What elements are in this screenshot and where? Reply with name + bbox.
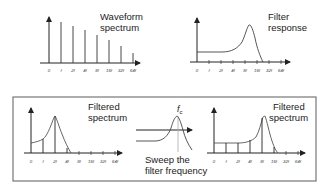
- sweep-filter-curve: [136, 116, 192, 150]
- svg-text:8f: 8f: [95, 68, 99, 73]
- x-tick-labels: 0 f 2f 4f 8f 16f 32f 64f: [30, 159, 119, 164]
- x-tick-labels: 0 f 2f 4f 8f 16f 32f 64f: [196, 68, 285, 73]
- svg-text:64f: 64f: [295, 159, 302, 164]
- svg-text:64f: 64f: [130, 68, 137, 73]
- filtered-spectrum-low-panel: 0 f 2f 4f 8f 16f 32f 64f Filtered spectr…: [24, 101, 127, 164]
- svg-text:2f: 2f: [70, 68, 75, 73]
- svg-text:4f: 4f: [231, 68, 235, 73]
- svg-text:32f: 32f: [266, 68, 273, 73]
- svg-text:8f: 8f: [77, 159, 81, 164]
- svg-text:16f: 16f: [88, 159, 95, 164]
- svg-text:f: f: [225, 159, 227, 164]
- svg-text:4f: 4f: [83, 68, 87, 73]
- filtered-high-title-1: Filtered: [273, 101, 305, 112]
- svg-text:16f: 16f: [254, 68, 261, 73]
- filter-curve: [197, 25, 263, 62]
- svg-text:2f: 2f: [218, 68, 223, 73]
- svg-text:64f: 64f: [278, 68, 285, 73]
- filtered-low-title-2: spectrum: [88, 112, 127, 123]
- filter-title-1: Filter: [268, 11, 289, 22]
- svg-text:f: f: [42, 159, 44, 164]
- svg-text:0: 0: [48, 68, 51, 73]
- svg-text:4f: 4f: [65, 159, 69, 164]
- sweep-caption-1: Sweep the: [145, 154, 190, 165]
- filtered-high-title-2: spectrum: [269, 112, 308, 123]
- svg-text:16f: 16f: [271, 159, 278, 164]
- sweep-caption-2: filter frequency: [145, 165, 208, 176]
- svg-text:32f: 32f: [118, 68, 125, 73]
- svg-text:0: 0: [30, 159, 33, 164]
- svg-text:8f: 8f: [243, 68, 247, 73]
- waveform-title-1: Waveform: [100, 11, 143, 22]
- filtered-low-title-1: Filtered: [88, 101, 120, 112]
- waveform-title-2: spectrum: [100, 22, 139, 33]
- svg-text:64f: 64f: [112, 159, 119, 164]
- cutoff-label: fc: [177, 104, 183, 115]
- svg-text:32f: 32f: [283, 159, 290, 164]
- svg-text:f: f: [208, 68, 210, 73]
- svg-text:2f: 2f: [235, 159, 240, 164]
- filter-curve: [31, 116, 71, 153]
- svg-text:4f: 4f: [248, 159, 252, 164]
- svg-text:2f: 2f: [52, 159, 57, 164]
- filter-title-2: response: [268, 22, 307, 33]
- filtered-spectrum-high-panel: 0 f 2f 4f 8f 16f 32f 64f Filtered spectr…: [207, 101, 308, 164]
- waveform-spectrum-panel: 0 f 2f 4f 8f 16f 32f 64f Waveform spectr…: [40, 11, 143, 73]
- svg-text:f: f: [60, 68, 62, 73]
- svg-text:32f: 32f: [100, 159, 107, 164]
- sweep-panel: fc Sweep the filter frequency: [136, 104, 208, 176]
- x-tick-labels: 0 f 2f 4f 8f 16f 32f 64f: [213, 159, 302, 164]
- filter-response-panel: 0 f 2f 4f 8f 16f 32f 64f Filter response: [190, 11, 307, 73]
- svg-text:0: 0: [196, 68, 199, 73]
- filter-sweep-diagram: 0 f 2f 4f 8f 16f 32f 64f Waveform spectr…: [0, 0, 330, 187]
- svg-text:8f: 8f: [260, 159, 264, 164]
- svg-text:16f: 16f: [106, 68, 113, 73]
- svg-text:0: 0: [213, 159, 216, 164]
- x-tick-labels: 0 f 2f 4f 8f 16f 32f 64f: [48, 68, 137, 73]
